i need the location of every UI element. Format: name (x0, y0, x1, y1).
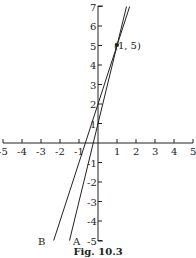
svg-text:3: 3 (152, 146, 158, 157)
point-label: (1, 5) (114, 40, 141, 51)
svg-text:4: 4 (171, 146, 177, 157)
svg-text:2: 2 (133, 146, 139, 157)
svg-text:4: 4 (90, 60, 96, 71)
svg-text:7: 7 (90, 2, 96, 13)
svg-text:3: 3 (90, 80, 96, 91)
svg-text:-3: -3 (36, 146, 46, 157)
svg-text:2: 2 (90, 99, 96, 110)
svg-text:-5: -5 (87, 236, 97, 247)
svg-text:1: 1 (114, 146, 120, 157)
svg-text:5: 5 (90, 41, 96, 52)
svg-text:-4: -4 (87, 216, 97, 227)
y-ticks: -5-4-3-2-11234567 (87, 2, 102, 247)
svg-text:-4: -4 (17, 146, 27, 157)
svg-text:6: 6 (90, 21, 96, 32)
graph: -5-4-3-2-112345 -5-4-3-2-11234567 (1, 5)… (0, 0, 196, 258)
svg-text:-5: -5 (0, 146, 8, 157)
svg-text:5: 5 (190, 146, 196, 157)
svg-text:-2: -2 (55, 146, 65, 157)
svg-text:-3: -3 (87, 197, 97, 208)
figure-caption: Fig. 10.3 (0, 246, 196, 257)
svg-text:-2: -2 (87, 177, 97, 188)
